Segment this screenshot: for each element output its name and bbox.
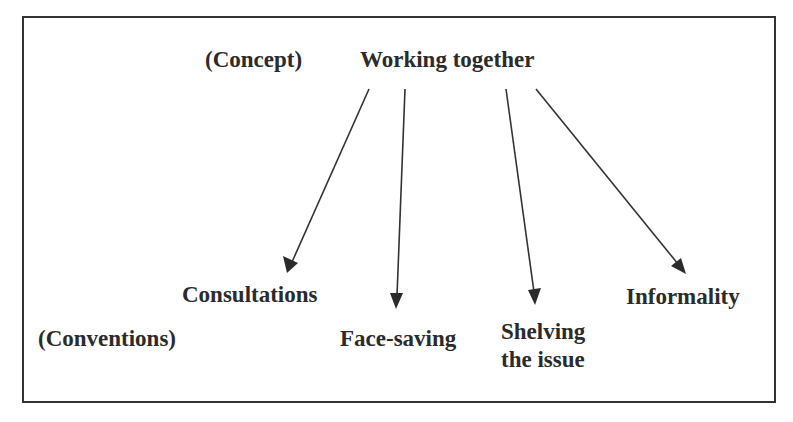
arrow-to-informality [536, 89, 686, 274]
concept-working-together: Working together [360, 46, 534, 73]
convention-informality: Informality [626, 283, 740, 310]
convention-face-saving: Face-saving [340, 325, 456, 352]
convention-shelving-line2: the issue [501, 346, 585, 373]
concept-tag: (Concept) [205, 46, 302, 73]
conventions-tag: (Conventions) [38, 325, 176, 352]
arrow-to-face-saving [390, 89, 405, 309]
convention-shelving-line1: Shelving [501, 318, 585, 345]
arrow-to-consultations [283, 89, 369, 273]
arrow-to-shelving-the-issue [506, 89, 541, 305]
convention-consultations: Consultations [182, 281, 317, 308]
